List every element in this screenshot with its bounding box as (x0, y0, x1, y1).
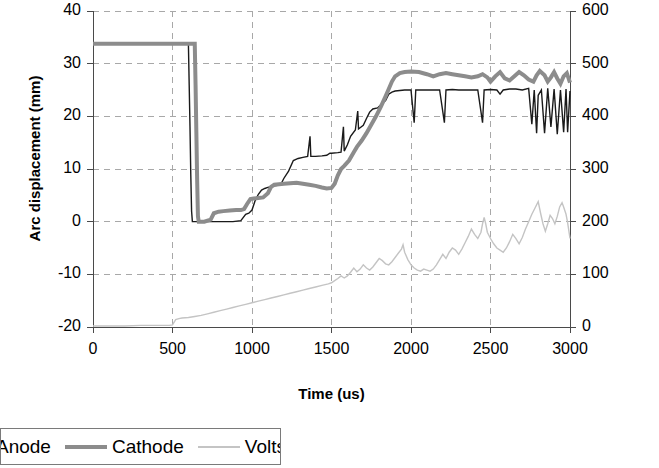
legend-item-cathode[interactable]: Cathode (65, 436, 184, 458)
y-axis-right-tick: 600 (582, 1, 628, 19)
legend-swatch-volts-icon (198, 446, 240, 448)
y-axis-left-tick: 0 (35, 212, 81, 230)
y-axis-left-tick: 20 (35, 106, 81, 124)
chart-legend: AnodeCathodeVolts (0, 428, 281, 465)
y-axis-left-tick: 10 (35, 159, 81, 177)
legend-label: Anode (0, 436, 51, 458)
x-axis-tick: 1000 (222, 340, 282, 358)
x-axis-tick: 2000 (381, 340, 441, 358)
y-axis-right-tick: 200 (582, 212, 628, 230)
legend-item-anode[interactable]: Anode (0, 436, 51, 458)
legend-item-volts[interactable]: Volts (198, 436, 281, 458)
x-axis-tick: 0 (63, 340, 123, 358)
y-axis-right-tick: 300 (582, 159, 628, 177)
y-axis-right-tick: 500 (582, 54, 628, 72)
x-axis-title: Time (us) (93, 385, 570, 402)
x-axis-tick: 3000 (540, 340, 600, 358)
y-axis-left-tick: -20 (35, 317, 81, 335)
legend-label: Cathode (112, 436, 184, 458)
y-axis-right-tick: 100 (582, 264, 628, 282)
y-axis-left-tick: 40 (35, 1, 81, 19)
x-axis-tick: 500 (143, 340, 203, 358)
chart-root: Arc displacement (mm) Arc volts (V) Time… (0, 0, 659, 468)
y-axis-left-tick: 30 (35, 54, 81, 72)
y-axis-left-tick: -10 (35, 264, 81, 282)
y-axis-right-tick: 400 (582, 106, 628, 124)
x-axis-tick: 1500 (302, 340, 362, 358)
legend-swatch-cathode-icon (65, 445, 107, 449)
y-axis-right-tick: 0 (582, 317, 628, 335)
legend-label: Volts (245, 436, 281, 458)
x-axis-tick: 2500 (461, 340, 521, 358)
